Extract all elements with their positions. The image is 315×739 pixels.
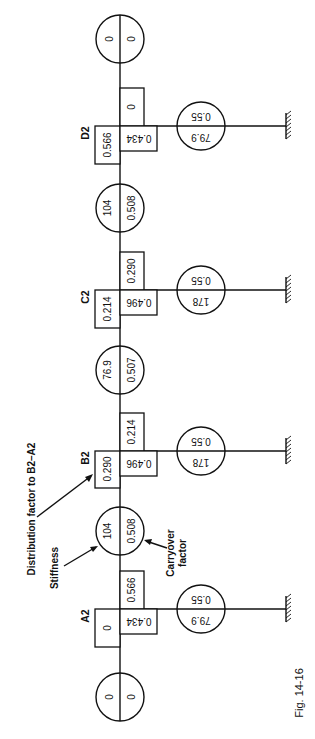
a2-column-carryover: 0.55 xyxy=(191,594,211,605)
end-top-left-value: 0 xyxy=(104,36,115,42)
c2-column-stiffness: 178 xyxy=(192,296,209,307)
a2-label: A2 xyxy=(79,609,91,623)
stiffness-label: Stiffness xyxy=(49,546,60,589)
annotation-stiffness: Stiffness xyxy=(49,546,98,589)
fixed-support-icon xyxy=(286,594,291,622)
a2-df-column: 0.434 xyxy=(126,616,151,627)
d2-df-left: 0.566 xyxy=(102,132,113,157)
end-top-right-value: 0 xyxy=(126,36,137,42)
c2-df-left: 0.214 xyxy=(102,296,113,321)
d2-column-stiffness: 79.9 xyxy=(191,132,211,143)
a2-column-stiffness: 79.9 xyxy=(191,615,211,626)
a2-df-right: 0.566 xyxy=(126,577,137,602)
beam-b2-c2: 76.9 0.507 xyxy=(96,346,144,394)
figure-caption: Fig. 14-16 xyxy=(293,668,305,718)
distribution-factor-label: Distribution factor to B2–A2 xyxy=(26,442,37,575)
b2-df-column: 0.496 xyxy=(126,458,151,469)
carryover-label-line1: Carryover xyxy=(165,529,176,576)
moment-distribution-diagram: 0 0 0 0.566 0.434 D2 0.55 79.9 104 0.5 xyxy=(0,0,315,739)
beam-a2-b2-stiffness: 104 xyxy=(102,522,113,539)
fixed-support-icon xyxy=(286,111,291,139)
distribution-factor-arrow xyxy=(37,476,91,517)
end-bottom-left-value: 0 xyxy=(104,694,115,700)
end-member-top: 0 0 xyxy=(96,15,144,63)
d2-label: D2 xyxy=(79,126,91,140)
joint-c2: 0.290 0.214 0.496 C2 0.55 178 xyxy=(79,252,291,328)
beam-b2-c2-carryover: 0.507 xyxy=(126,357,137,382)
beam-c2-d2-stiffness: 104 xyxy=(102,199,113,216)
end-member-bottom: 0 0 xyxy=(96,673,144,721)
end-bottom-right-value: 0 xyxy=(126,694,137,700)
d2-df-column: 0.434 xyxy=(126,133,151,144)
b2-df-right: 0.214 xyxy=(126,419,137,444)
fixed-support-icon xyxy=(286,275,291,303)
joint-b2: 0.214 0.290 0.496 B2 0.55 178 xyxy=(79,413,291,488)
a2-df-left: 0 xyxy=(102,625,113,631)
c2-column-carryover: 0.55 xyxy=(191,275,211,286)
b2-df-left: 0.290 xyxy=(102,456,113,481)
c2-label: C2 xyxy=(79,290,91,304)
joint-a2: 0.566 0 0.434 A2 0.55 79.9 xyxy=(79,571,291,647)
beam-b2-c2-stiffness: 76.9 xyxy=(102,360,113,380)
joint-d2: 0 0.566 0.434 D2 0.55 79.9 xyxy=(79,88,291,164)
c2-df-right: 0.290 xyxy=(126,258,137,283)
carryover-label-line2: factor xyxy=(177,539,188,567)
b2-label: B2 xyxy=(79,451,91,465)
annotation-carryover: Carryover factor xyxy=(144,529,188,576)
b2-column-carryover: 0.55 xyxy=(191,436,211,447)
beam-c2-d2-carryover: 0.508 xyxy=(126,195,137,220)
fixed-support-icon xyxy=(286,436,291,464)
beam-a2-b2-carryover: 0.508 xyxy=(126,518,137,543)
beam-a2-b2: 104 0.508 xyxy=(96,507,144,555)
stiffness-arrow xyxy=(64,547,96,566)
beam-c2-d2: 104 0.508 xyxy=(96,184,144,232)
d2-column-carryover: 0.55 xyxy=(191,111,211,122)
d2-df-right: 0 xyxy=(126,104,137,110)
b2-column-stiffness: 178 xyxy=(192,457,209,468)
c2-df-column: 0.496 xyxy=(126,297,151,308)
